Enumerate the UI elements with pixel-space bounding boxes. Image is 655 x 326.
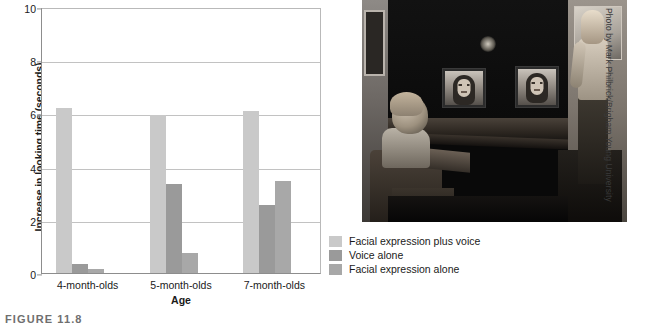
bar [275, 181, 291, 273]
x-tick-label: 4-month-olds [57, 279, 118, 291]
bar [56, 108, 72, 273]
y-tick-label: 6 [30, 109, 36, 121]
photo-face-mouth [461, 91, 467, 93]
gridline [42, 62, 320, 63]
bar [166, 184, 182, 273]
bar [88, 269, 104, 273]
photo-face-skin [458, 79, 471, 97]
x-axis-title: Age [41, 294, 321, 306]
bar [182, 253, 198, 273]
legend-item: Facial expression plus voice [329, 236, 480, 247]
figure-caption: FIGURE 11.8 [5, 313, 83, 325]
photo-wall-picture-frame [364, 10, 385, 76]
bar [72, 264, 88, 273]
photo-monitor-right [515, 66, 559, 108]
bar [243, 111, 259, 273]
photo-face-mouth [534, 89, 540, 91]
y-tick-label: 10 [24, 3, 36, 15]
photo-face-eyes [532, 82, 543, 84]
bar [150, 115, 166, 273]
photo-face-skin [531, 77, 544, 95]
x-tick-label: 7-month-olds [244, 279, 305, 291]
legend-swatch [329, 236, 342, 247]
photo-credit: Photo by Mark Philbrick/Brigham Young Un… [604, 8, 614, 222]
y-tick-mark [37, 274, 42, 275]
legend-swatch [329, 250, 342, 261]
legend-label: Facial expression alone [349, 264, 459, 275]
photo-face-eyes [459, 84, 470, 86]
y-tick-mark [37, 221, 42, 222]
gridline [42, 115, 320, 116]
legend-item: Voice alone [329, 250, 480, 261]
legend-item: Facial expression alone [329, 264, 480, 275]
photo-ceiling-light [480, 36, 496, 52]
photo-face-image-left [445, 71, 483, 105]
legend-swatch [329, 264, 342, 275]
photo-infant-hair [390, 92, 423, 116]
y-tick-mark [37, 115, 42, 116]
x-tick-label: 5-month-olds [150, 279, 211, 291]
y-tick-mark [37, 8, 42, 9]
experiment-photograph [362, 0, 627, 222]
gridline [42, 169, 320, 170]
y-tick-label: 8 [30, 56, 36, 68]
y-tick-label: 4 [30, 163, 36, 175]
y-tick-label: 2 [30, 216, 36, 228]
bar [259, 205, 275, 273]
legend-label: Voice alone [349, 250, 403, 261]
photo-researcher-head [584, 16, 601, 36]
photo-monitor-left [442, 68, 486, 108]
chart-legend: Facial expression plus voiceVoice aloneF… [329, 236, 480, 275]
y-tick-mark [37, 62, 42, 63]
photo-floor [388, 196, 568, 222]
y-tick-mark [37, 168, 42, 169]
photo-infant-body [382, 128, 430, 168]
legend-label: Facial expression plus voice [349, 236, 480, 247]
photo-face-image-right [518, 69, 556, 105]
plot-area: 0246810 [41, 8, 321, 274]
bar-chart-figure: Increase in looking time (seconds) 02468… [0, 0, 345, 326]
y-tick-label: 0 [30, 269, 36, 281]
